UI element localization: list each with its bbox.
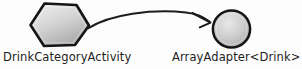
- edge-activity-to-adapter[interactable]: [89, 11, 211, 28]
- node-label-activity: DrinkCategoryActivity: [3, 52, 131, 64]
- hexagon-shape: [31, 4, 90, 47]
- circle-shape: [213, 10, 250, 47]
- node-label-adapter: ArrayAdapter<Drink>: [172, 52, 301, 64]
- arrowhead-icon: [193, 13, 211, 27]
- edge-line: [89, 11, 210, 28]
- sketch-diagram: DrinkCategoryActivity ArrayAdapter<Drink…: [0, 0, 302, 69]
- node-activity-hexagon[interactable]: [31, 4, 90, 47]
- node-adapter-circle[interactable]: [213, 10, 250, 47]
